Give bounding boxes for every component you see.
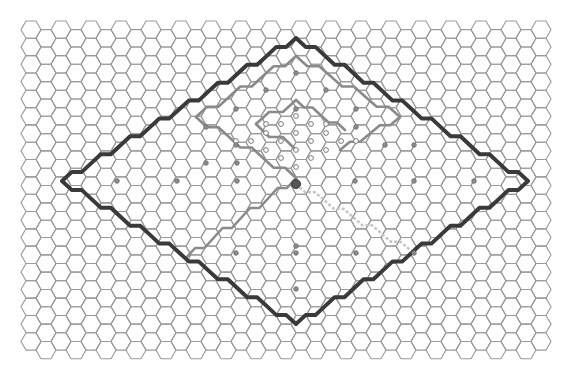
- ring-marker: [294, 165, 299, 170]
- dot-marker: [294, 287, 299, 292]
- ring-marker: [324, 148, 329, 153]
- hex-cell[interactable]: [531, 73, 551, 90]
- hex-cell[interactable]: [531, 263, 551, 280]
- ring-marker: [264, 122, 269, 127]
- hex-cell[interactable]: [531, 142, 551, 159]
- dot-marker: [234, 143, 239, 148]
- dot-marker: [412, 251, 417, 256]
- hex-cell[interactable]: [531, 298, 551, 315]
- dot-marker: [354, 251, 359, 256]
- ring-marker: [339, 139, 344, 144]
- ring-marker: [279, 156, 284, 161]
- ring-marker: [264, 131, 269, 136]
- ring-marker: [309, 156, 314, 161]
- dot-marker: [412, 179, 417, 184]
- dot-marker: [234, 251, 239, 256]
- dot-marker: [472, 179, 477, 184]
- hex-cell[interactable]: [531, 160, 551, 177]
- ring-marker: [264, 148, 269, 153]
- dot-marker: [294, 107, 299, 112]
- ring-marker: [324, 131, 329, 136]
- dot-marker: [324, 88, 329, 93]
- hex-cell[interactable]: [531, 333, 551, 350]
- ring-marker: [324, 122, 329, 127]
- ring-marker: [279, 122, 284, 127]
- dot-marker: [264, 88, 269, 93]
- dot-marker: [383, 143, 388, 148]
- ring-marker: [249, 139, 254, 144]
- dot-marker: [412, 143, 417, 148]
- ring-marker: [279, 139, 284, 144]
- dot-marker: [234, 107, 239, 112]
- dot-marker: [294, 251, 299, 256]
- hex-cell[interactable]: [531, 246, 551, 263]
- hex-grid: [21, 21, 551, 359]
- dot-marker: [235, 179, 240, 184]
- inner-cluster-ll: [256, 124, 296, 150]
- ring-marker: [294, 148, 299, 153]
- inner-cluster-ul: [256, 100, 296, 124]
- dot-marker: [354, 125, 359, 130]
- dot-marker: [354, 107, 359, 112]
- ring-marker: [294, 114, 299, 119]
- hex-cell[interactable]: [531, 90, 551, 107]
- ring-marker: [294, 131, 299, 136]
- ring-marker: [309, 139, 314, 144]
- dot-marker: [204, 161, 209, 166]
- hex-cell[interactable]: [531, 281, 551, 298]
- dot-marker: [175, 179, 180, 184]
- hex-cell[interactable]: [531, 21, 551, 38]
- dot-marker: [235, 161, 240, 166]
- dot-marker: [115, 179, 120, 184]
- hex-cell[interactable]: [531, 315, 551, 332]
- dot-marker: [204, 125, 209, 130]
- hex-cell[interactable]: [531, 177, 551, 194]
- dot-marker: [294, 244, 299, 249]
- hex-cell[interactable]: [531, 108, 551, 125]
- dot-marker: [353, 179, 358, 184]
- hex-cell[interactable]: [531, 194, 551, 211]
- dot-marker: [294, 71, 299, 76]
- current-position-marker: [292, 180, 301, 189]
- hex-board[interactable]: [0, 0, 585, 371]
- ring-marker: [354, 139, 359, 144]
- hex-cell[interactable]: [531, 229, 551, 246]
- hex-cell[interactable]: [531, 125, 551, 142]
- hex-cell[interactable]: [531, 212, 551, 229]
- hex-cell[interactable]: [531, 38, 551, 55]
- hex-cell[interactable]: [531, 56, 551, 73]
- markers: [115, 71, 477, 292]
- ring-marker: [309, 122, 314, 127]
